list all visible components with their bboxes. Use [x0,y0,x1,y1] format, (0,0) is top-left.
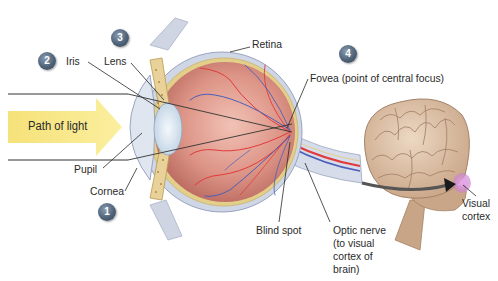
label-retina: Retina [252,38,282,51]
eye-diagram: Path of light 2 Iris 3 Lens Retina 4 Fov… [0,0,498,281]
label-optic-nerve-line4: brain) [333,263,359,276]
badge-3-lens: 3 [111,29,129,47]
label-blind-spot: Blind spot [256,224,301,237]
lens-shape [154,103,182,155]
badge-1-cornea: 1 [98,203,116,221]
label-optic-nerve-line1: Optic nerve [333,224,386,237]
label-optic-nerve-line2: (to visual [333,237,374,250]
label-fovea: Fovea (point of central focus) [310,72,444,85]
diagram-artwork [0,0,498,281]
cornea-shape [130,75,155,180]
label-optic-nerve-line3: cortex of [333,250,373,263]
path-of-light-label: Path of light [28,119,87,133]
label-iris: Iris [66,55,80,68]
label-lens: Lens [104,55,126,68]
label-pupil: Pupil [74,163,97,176]
label-visual-cortex-line1: Visual [462,197,490,210]
label-visual-cortex-line2: cortex [462,210,490,223]
label-cornea: Cornea [90,185,124,198]
badge-4-fovea: 4 [339,45,357,63]
badge-2-iris: 2 [38,52,56,70]
